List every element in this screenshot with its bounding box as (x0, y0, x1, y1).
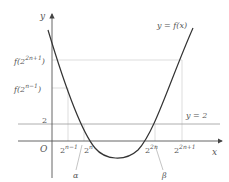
y-axis-label: y (39, 11, 46, 21)
ytick-2: 2 (42, 116, 47, 125)
origin-label: O (40, 144, 48, 154)
beta-label: β (161, 171, 167, 180)
curve-f (48, 28, 193, 158)
y2-label: y = 2 (185, 111, 207, 120)
xtick-2-2n: 22n (145, 143, 158, 155)
curve-label: y = f(x) (156, 21, 187, 30)
ytick-f-2n1: f(22n+1) (13, 54, 45, 66)
x-axis-label: x (212, 147, 217, 157)
xtick-2-n1: 2n−1 (60, 143, 78, 155)
alpha-label: α (73, 171, 79, 180)
xtick-2-n: 2n (84, 143, 93, 155)
ytick-f-n1: f(2n−1) (13, 82, 41, 94)
xtick-2-2n1: 22n+1 (174, 143, 196, 155)
function-graph: y x O y = f(x) y = 2 2 f(22n+1) f(2n−1) … (0, 0, 229, 182)
